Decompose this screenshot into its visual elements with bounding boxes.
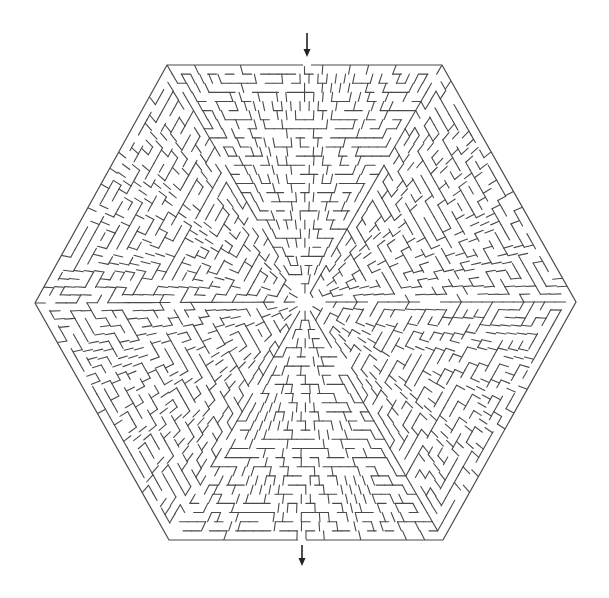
hexagonal-maze[interactable] [0, 0, 609, 598]
exit-arrow-icon [299, 545, 306, 566]
maze-walls [35, 65, 567, 540]
entrance-arrow-icon [304, 33, 311, 57]
maze-canvas: Hexagonal maze with entrance at top and … [0, 0, 609, 598]
